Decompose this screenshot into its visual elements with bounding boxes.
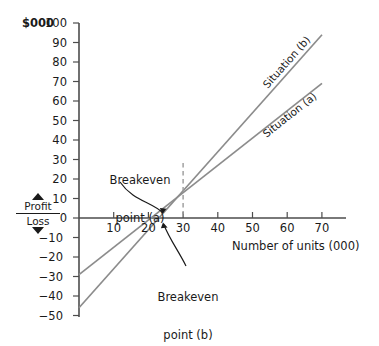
breakeven-a-line1: Breakeven: [97, 174, 183, 187]
y-tick-label-minus-20: −20: [29, 251, 63, 264]
breakeven-point-a-annotation: Breakeven point (a): [97, 148, 183, 251]
y-tick-label-80: 80: [33, 56, 67, 69]
breakeven-a-line2: point (a): [97, 212, 183, 225]
up-triangle-icon: [32, 193, 44, 200]
breakeven-point-b-annotation: Breakeven point (b): [145, 265, 231, 346]
y-tick-label-100: 100: [33, 17, 67, 30]
y-tick-label-20: 20: [33, 173, 67, 186]
x-tick-label-40: 40: [203, 222, 233, 235]
breakeven-b-line1: Breakeven: [145, 291, 231, 304]
x-axis-title: Number of units (000): [232, 240, 359, 253]
profit-loss-divider: [16, 213, 60, 214]
x-tick-label-70: 70: [307, 222, 337, 235]
y-tick-label-minus-50: −50: [29, 310, 63, 323]
y-tick-label-minus-40: −40: [29, 290, 63, 303]
y-tick-label-50: 50: [33, 115, 67, 128]
x-tick-label-60: 60: [272, 222, 302, 235]
y-tick-label-60: 60: [33, 95, 67, 108]
y-tick-label-90: 90: [33, 37, 67, 50]
y-tick-label-40: 40: [33, 134, 67, 147]
y-tick-label-30: 30: [33, 154, 67, 167]
breakeven-b-line2: point (b): [145, 329, 231, 342]
y-axis-ticks: [73, 23, 79, 316]
x-tick-label-50: 50: [238, 222, 268, 235]
loss-label: Loss: [14, 215, 62, 227]
y-tick-label-minus-30: −30: [29, 271, 63, 284]
profit-label: Profit: [14, 200, 62, 212]
down-triangle-icon: [32, 227, 44, 234]
y-tick-label-70: 70: [33, 76, 67, 89]
profit-loss-indicator: Profit Loss: [14, 193, 62, 234]
